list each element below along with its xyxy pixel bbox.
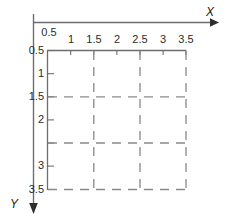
y-axis-label: Y xyxy=(10,198,18,210)
x-tick-label-1: 1 xyxy=(59,34,83,45)
x-tick-marks xyxy=(71,51,186,56)
x-tick-label-1-5: 1.5 xyxy=(82,34,106,45)
y-tick-marks xyxy=(48,51,55,190)
y-tick-label-3: 3 xyxy=(11,160,44,171)
vertical-gridlines xyxy=(94,51,186,190)
x-axis-origin-label: 0.5 xyxy=(37,27,61,38)
x-tick-label-3: 3 xyxy=(151,34,175,45)
y-tick-label-0-5: 0.5 xyxy=(11,45,44,56)
x-axis-arrow-icon xyxy=(210,18,219,27)
x-axis-line-group xyxy=(33,18,219,27)
y-tick-label-3-5: 3.5 xyxy=(11,184,44,195)
x-axis-label: X xyxy=(206,6,214,18)
x-tick-label-2-5: 2.5 xyxy=(128,34,152,45)
horizontal-gridlines xyxy=(48,97,186,190)
coordinate-grid-figure: X Y 0.5 1 1.5 2 2.5 3 3.5 0.5 1 1.5 2 3 … xyxy=(0,0,229,224)
x-tick-label-3-5: 3.5 xyxy=(174,34,198,45)
plot-border-group xyxy=(47,50,186,190)
y-axis-arrow-icon xyxy=(29,203,38,214)
y-tick-label-1: 1 xyxy=(11,68,44,79)
x-tick-label-2: 2 xyxy=(105,34,129,45)
y-tick-label-1-5: 1.5 xyxy=(11,91,44,102)
y-tick-label-2: 2 xyxy=(11,114,44,125)
